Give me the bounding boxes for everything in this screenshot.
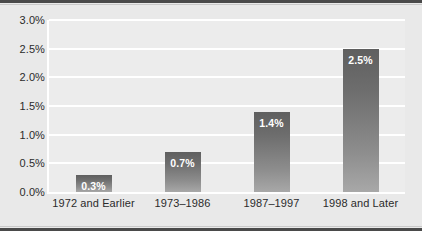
y-axis-tick-label: 3.0% <box>3 15 45 26</box>
y-axis-tick-label: 1.0% <box>3 130 45 141</box>
x-axis-tick-label: 1998 and Later <box>316 197 405 209</box>
x-axis-tick-label: 1987–1997 <box>227 197 316 209</box>
plot-area: 0.3%0.7%1.4%2.5% <box>49 20 405 192</box>
bar-value-label: 1.4% <box>254 117 290 129</box>
figure-bottom-rule <box>0 228 422 231</box>
bar[interactable]: 0.7% <box>165 152 201 192</box>
bar-chart-figure: 0.0%0.5%1.0%1.5%2.0%2.5%3.0% 0.3%0.7%1.4… <box>0 0 422 231</box>
figure-top-rule-secondary <box>0 4 422 5</box>
y-axis-tick-label: 0.5% <box>3 158 45 169</box>
figure-bottom-rule-secondary <box>0 226 422 227</box>
gridline <box>49 19 405 21</box>
x-axis-tick-label: 1972 and Earlier <box>49 197 138 209</box>
bar[interactable]: 2.5% <box>343 49 379 192</box>
y-axis-line <box>47 20 49 194</box>
bar-value-label: 2.5% <box>343 54 379 66</box>
x-axis-tick-labels: 1972 and Earlier1973–19861987–19971998 a… <box>49 197 405 217</box>
bar[interactable]: 0.3% <box>76 175 112 192</box>
x-axis-tick-label: 1973–1986 <box>138 197 227 209</box>
y-axis-tick-label: 2.0% <box>3 72 45 83</box>
y-axis-tick-labels: 0.0%0.5%1.0%1.5%2.0%2.5%3.0% <box>0 20 45 192</box>
x-axis-line <box>49 192 405 194</box>
y-axis-tick-label: 1.5% <box>3 101 45 112</box>
bar[interactable]: 1.4% <box>254 112 290 192</box>
y-axis-tick-label: 2.5% <box>3 44 45 55</box>
y-axis-tick-label: 0.0% <box>3 187 45 198</box>
bar-value-label: 0.7% <box>165 157 201 169</box>
figure-top-rule <box>0 0 422 3</box>
bar-value-label: 0.3% <box>76 180 112 192</box>
